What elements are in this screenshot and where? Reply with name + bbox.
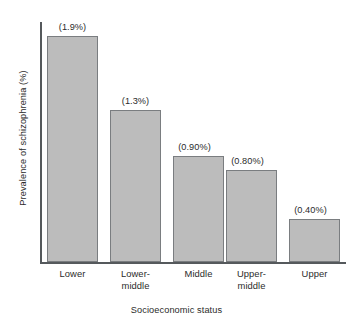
bar xyxy=(110,110,161,262)
x-tick-label: Upper- middle xyxy=(216,268,287,291)
y-axis-line xyxy=(40,22,42,263)
bar xyxy=(47,36,98,262)
x-axis-line xyxy=(40,262,346,264)
bar-value-label: (0.80%) xyxy=(212,156,283,166)
bar-value-label: (0.90%) xyxy=(159,142,230,152)
x-tick-label: Upper xyxy=(279,268,350,280)
x-axis-title: Socioeconomic status xyxy=(0,305,353,315)
bar-chart-figure: Prevalence of schizophrenia (%) (1.9%)Lo… xyxy=(0,0,353,325)
plot-area: Prevalence of schizophrenia (%) (1.9%)Lo… xyxy=(0,0,353,325)
x-tick-label: Lower- middle xyxy=(100,268,171,291)
bar-value-label: (1.9%) xyxy=(37,22,108,32)
bar xyxy=(289,219,340,262)
bar xyxy=(226,170,277,262)
bar-value-label: (1.3%) xyxy=(100,96,171,106)
x-tick-label: Lower xyxy=(37,268,108,280)
bar-value-label: (0.40%) xyxy=(275,205,346,215)
bar xyxy=(173,156,224,262)
y-axis-title: Prevalence of schizophrenia (%) xyxy=(18,18,32,258)
